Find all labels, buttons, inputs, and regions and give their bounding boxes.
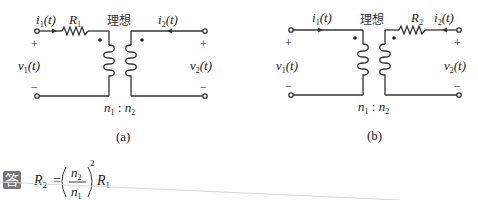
voltage-label-v2-b: v2(t) xyxy=(444,58,466,75)
terminal-a-top-left xyxy=(35,29,39,33)
fraction-denominator: n1 xyxy=(71,184,82,200)
terminal-a-top-right xyxy=(203,29,207,33)
minus-sign-left-a: − xyxy=(31,80,38,94)
primary-coil-icon xyxy=(358,44,369,95)
answer-equals: = xyxy=(53,173,61,188)
answer-badge-label: 答 xyxy=(5,172,19,188)
voltage-label-v2-a: v2(t) xyxy=(190,58,212,75)
minus-sign-right-b: − xyxy=(454,79,461,93)
polarity-dot-icon xyxy=(353,36,357,40)
current-label-i1-b: i1(t) xyxy=(312,10,332,27)
plus-sign-left-b: + xyxy=(285,36,292,50)
current-label-i2-a: i2(t) xyxy=(158,12,178,29)
fraction-numerator: n2 xyxy=(71,165,82,182)
scan-artifact-line xyxy=(0,182,400,200)
resistor-r2-icon xyxy=(399,26,425,34)
left-paren-icon xyxy=(62,167,66,197)
ideal-label-a: 理想 xyxy=(107,13,131,28)
minus-sign-left-b: − xyxy=(285,79,292,93)
current-arrow-i2-b-icon xyxy=(442,28,447,33)
terminal-b-bottom-left xyxy=(289,93,293,97)
polarity-dot-icon xyxy=(98,38,102,42)
caption-a: (a) xyxy=(116,129,130,144)
terminal-a-bottom-right xyxy=(203,94,207,98)
circuit-a xyxy=(35,27,207,98)
terminal-b-bottom-right xyxy=(457,93,461,97)
terminal-b-top-right xyxy=(457,28,461,32)
current-arrow-i1-a-icon xyxy=(52,29,57,34)
answer-lhs: R2 xyxy=(33,173,47,190)
voltage-label-v1-b: v1(t) xyxy=(276,58,298,75)
primary-coil-icon xyxy=(104,45,115,96)
ideal-label-b: 理想 xyxy=(360,12,384,27)
plus-sign-right-b: + xyxy=(454,36,461,50)
turns-ratio-a: n1 : n2 xyxy=(104,100,135,117)
secondary-coil-icon xyxy=(126,45,137,96)
plus-sign-right-a: + xyxy=(200,37,207,51)
terminal-a-bottom-left xyxy=(35,94,39,98)
right-paren-icon xyxy=(88,167,92,197)
plus-sign-left-a: + xyxy=(31,37,38,51)
polarity-dot-icon xyxy=(140,38,144,42)
current-label-i1-a: i1(t) xyxy=(36,12,56,29)
minus-sign-right-a: − xyxy=(200,80,207,94)
resistor-r1-icon xyxy=(62,27,88,35)
circuit-b xyxy=(289,26,461,97)
polarity-dot-icon xyxy=(392,36,396,40)
terminal-b-top-left xyxy=(289,28,293,32)
resistor-label-r1: R1 xyxy=(68,12,81,29)
exponent: 2 xyxy=(90,158,95,168)
answer-rhs: R1 xyxy=(96,173,110,190)
resistor-label-r2: R2 xyxy=(410,10,423,27)
current-arrow-i2-a-icon xyxy=(167,29,172,34)
voltage-label-v1-a: v1(t) xyxy=(18,58,40,75)
secondary-coil-icon xyxy=(380,44,391,95)
current-arrow-i1-b-icon xyxy=(318,28,323,33)
current-label-i2-b: i2(t) xyxy=(434,10,454,27)
caption-b: (b) xyxy=(367,128,382,143)
turns-ratio-b: n1 : n2 xyxy=(358,99,389,116)
